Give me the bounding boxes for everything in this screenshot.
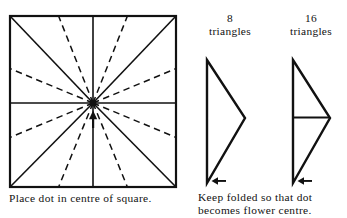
triangle-16-count: 16 xyxy=(277,12,345,25)
centre-up-arrow-icon xyxy=(89,111,97,129)
square-diagram xyxy=(10,16,176,187)
square-caption: Place dot in centre of square. xyxy=(9,192,189,205)
dashed-fold-2 xyxy=(93,16,127,103)
triangle-8-shape xyxy=(207,60,245,185)
triangle-8-left-arrow-icon xyxy=(212,177,227,184)
triangle-16-outline xyxy=(293,60,330,183)
triangle-16-word: triangles xyxy=(277,25,345,38)
triangle-8-outline xyxy=(207,60,245,183)
dashed-fold-5 xyxy=(93,103,127,187)
triangle-16-shape xyxy=(293,60,330,185)
solid-diagonal-tr xyxy=(93,16,176,103)
solid-diagonal-tl xyxy=(10,16,93,103)
figure-page: 8 triangles 16 triangles Place dot in ce… xyxy=(0,0,347,218)
triangle-16-left-arrow-icon xyxy=(298,177,313,184)
dashed-fold-3 xyxy=(93,69,176,103)
dashed-fold-6 xyxy=(59,103,93,187)
triangle-8-count: 8 xyxy=(196,12,264,25)
dashed-fold-1 xyxy=(59,16,93,103)
solid-diagonal-br xyxy=(93,103,176,187)
dashed-fold-4 xyxy=(93,103,176,137)
centre-dot xyxy=(90,100,96,106)
triangle-16-label: 16 triangles xyxy=(277,12,345,38)
dashed-fold-8 xyxy=(10,69,93,103)
triangles-caption: Keep folded so that dot becomes flower c… xyxy=(198,191,346,217)
triangle-8-label: 8 triangles xyxy=(196,12,264,38)
triangle-8-word: triangles xyxy=(196,25,264,38)
dashed-fold-7 xyxy=(10,103,93,137)
solid-diagonal-bl xyxy=(10,103,93,187)
